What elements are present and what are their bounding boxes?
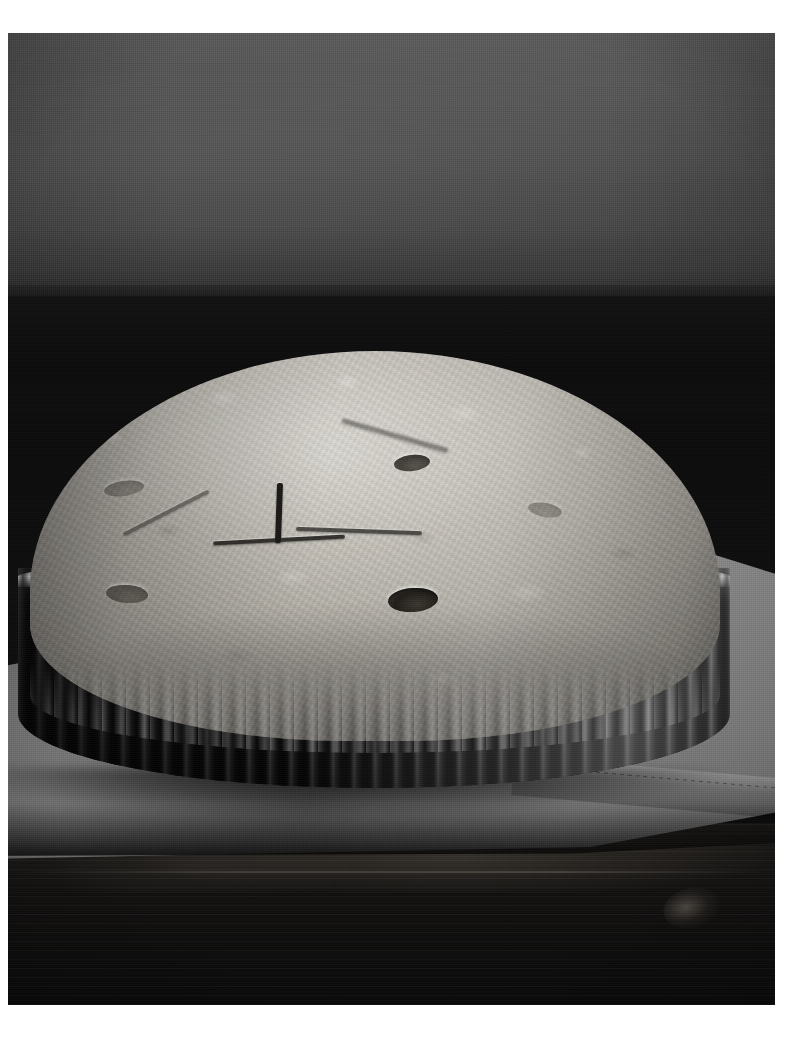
wood-plank-seam [8, 871, 775, 873]
back-wall-weave-texture [8, 33, 775, 296]
photograph [8, 33, 775, 1005]
